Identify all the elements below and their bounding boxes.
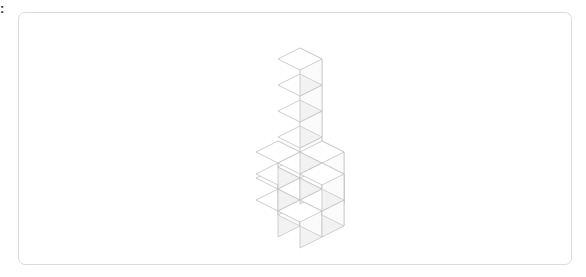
screenshot-root: :: [0, 0, 586, 277]
left-edge-glyph: :: [0, 2, 4, 18]
voxel-canvas-panel[interactable]: [18, 12, 572, 265]
voxel-figure: [19, 13, 571, 264]
voxel-stage[interactable]: [19, 13, 571, 264]
